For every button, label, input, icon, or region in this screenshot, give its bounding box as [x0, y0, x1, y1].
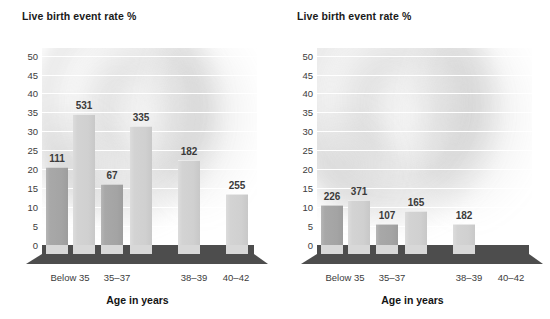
- y-tick-label: 15: [20, 183, 38, 194]
- x-tick-label: 38–39: [181, 272, 207, 283]
- bar: [453, 224, 475, 245]
- bar: [46, 167, 68, 245]
- left-chart-panel: Live birth event rate % 0510152025303540…: [0, 0, 275, 319]
- gridline: [317, 112, 532, 113]
- bar-value-label: 111: [42, 153, 76, 164]
- bar: [376, 224, 398, 245]
- y-tick-label: 40: [295, 88, 313, 99]
- gridline: [42, 75, 257, 76]
- y-tick-label: 45: [295, 69, 313, 80]
- gridline: [42, 56, 257, 57]
- left-chart-y-axis: 05101520253035404550: [18, 48, 38, 245]
- x-tick-label: Below 35: [325, 272, 364, 283]
- floor-notch: [178, 245, 200, 254]
- right-chart-x-axis-title: Age in years: [275, 294, 550, 306]
- x-tick-label: 40–42: [223, 272, 249, 283]
- y-tick-label: 35: [20, 107, 38, 118]
- right-chart-y-axis: 05101520253035404550: [293, 48, 313, 245]
- y-tick-label: 35: [295, 107, 313, 118]
- floor-notch: [405, 245, 427, 254]
- gridline: [317, 93, 532, 94]
- bar-value-label: 107: [368, 210, 406, 221]
- y-tick-label: 15: [295, 183, 313, 194]
- gridline: [317, 75, 532, 76]
- floor-notch: [226, 245, 248, 254]
- x-tick-label: 40–42: [498, 272, 524, 283]
- y-tick-label: 5: [295, 221, 313, 232]
- y-tick-label: 10: [295, 202, 313, 213]
- bar-value-label: 371: [340, 186, 378, 197]
- y-tick-label: 5: [20, 221, 38, 232]
- left-chart-plot-area: 11153167335182255: [42, 48, 257, 245]
- x-tick-label: Below 35: [50, 272, 89, 283]
- gridline: [42, 93, 257, 94]
- y-tick-label: 20: [20, 164, 38, 175]
- bar-value-label: 335: [122, 112, 160, 123]
- gridline: [317, 169, 532, 170]
- bar: [178, 160, 200, 245]
- bar-value-label: 182: [445, 210, 483, 221]
- floor-notch: [130, 245, 152, 254]
- x-tick-label: 35–37: [104, 272, 130, 283]
- y-tick-label: 20: [295, 164, 313, 175]
- right-chart-y-axis-title: Live birth event rate %: [297, 10, 411, 22]
- bar: [226, 194, 248, 245]
- x-tick-label: 38–39: [456, 272, 482, 283]
- figure-canvas: Live birth event rate % 0510152025303540…: [0, 0, 550, 319]
- right-chart-plot-area: 226371107165182: [317, 48, 532, 245]
- y-tick-label: 30: [20, 126, 38, 137]
- right-chart-floor: [301, 245, 543, 267]
- bar: [405, 211, 427, 245]
- floor-notch: [46, 245, 68, 254]
- y-tick-label: 25: [20, 145, 38, 156]
- floor-notch: [321, 245, 343, 254]
- left-chart-y-axis-title: Live birth event rate %: [22, 10, 136, 22]
- bar: [321, 205, 343, 245]
- bar: [130, 126, 152, 245]
- bar: [348, 200, 370, 245]
- left-chart-floor: [26, 245, 268, 267]
- floor-notch: [101, 245, 123, 254]
- x-tick-label: 35–37: [379, 272, 405, 283]
- y-tick-label: 45: [20, 69, 38, 80]
- bar: [73, 114, 95, 245]
- y-tick-label: 25: [295, 145, 313, 156]
- y-tick-label: 50: [295, 50, 313, 61]
- right-chart-panel: Live birth event rate % 0510152025303540…: [275, 0, 550, 319]
- gridline: [317, 56, 532, 57]
- floor-notch: [376, 245, 398, 254]
- y-tick-label: 10: [20, 202, 38, 213]
- floor-notch: [348, 245, 370, 254]
- left-chart-x-axis-title: Age in years: [0, 294, 275, 306]
- bar-value-label: 182: [170, 146, 208, 157]
- bar-value-label: 531: [65, 100, 103, 111]
- gridline: [317, 131, 532, 132]
- y-tick-label: 40: [20, 88, 38, 99]
- bar-value-label: 67: [93, 170, 131, 181]
- floor-notch: [73, 245, 95, 254]
- bar-value-label: 165: [397, 197, 435, 208]
- bar-value-label: 255: [218, 180, 256, 191]
- y-tick-label: 50: [20, 50, 38, 61]
- floor-notch: [453, 245, 475, 254]
- y-tick-label: 30: [295, 126, 313, 137]
- gridline: [317, 150, 532, 151]
- bar: [101, 184, 123, 245]
